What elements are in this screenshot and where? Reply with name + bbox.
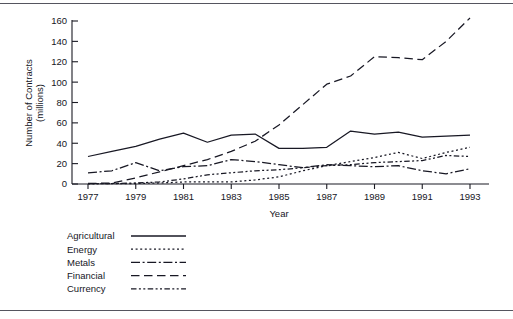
x-axis-tick-label: 1985	[268, 191, 289, 202]
y-axis-tick-label: 120	[51, 56, 67, 67]
y-axis-tick-label: 0	[62, 178, 67, 189]
figure-container: 020406080100120140160 197719791981198319…	[0, 0, 513, 319]
series-lines	[88, 18, 470, 184]
series-line-financial	[88, 18, 470, 184]
y-axis: 020406080100120140160	[51, 15, 78, 189]
legend-label-metals: Metals	[67, 257, 95, 268]
x-axis-tick-label: 1993	[459, 191, 480, 202]
y-axis-tick-label: 80	[56, 97, 67, 108]
legend-label-energy: Energy	[67, 244, 97, 255]
y-axis-tick-label: 60	[56, 117, 67, 128]
y-axis-tick-label: 100	[51, 77, 67, 88]
series-line-currency	[88, 155, 470, 183]
y-axis-title-line1: Number of Contracts	[23, 59, 34, 147]
x-axis-tick-label: 1979	[125, 191, 146, 202]
chart-legend: AgriculturalEnergyMetalsFinancialCurrenc…	[67, 230, 186, 294]
y-axis-tick-label: 140	[51, 36, 67, 47]
x-axis: 197719791981198319851987198919911993	[72, 184, 489, 202]
line-chart: 020406080100120140160 197719791981198319…	[0, 0, 513, 319]
x-axis-tick-label: 1981	[173, 191, 194, 202]
legend-label-agricultural: Agricultural	[67, 230, 115, 241]
x-axis-tick-label: 1977	[77, 191, 98, 202]
y-axis-tick-label: 160	[51, 15, 67, 26]
series-line-agricultural	[88, 131, 470, 156]
x-axis-tick-label: 1989	[364, 191, 385, 202]
legend-label-financial: Financial	[67, 270, 105, 281]
x-axis-tick-label: 1991	[412, 191, 433, 202]
x-axis-tick-label: 1987	[316, 191, 337, 202]
x-axis-tick-label: 1983	[221, 191, 242, 202]
x-axis-title: Year	[269, 208, 288, 219]
legend-label-currency: Currency	[67, 283, 106, 294]
y-axis-tick-label: 20	[56, 158, 67, 169]
series-line-energy	[88, 147, 470, 183]
y-axis-title-line2: (millions)	[34, 84, 45, 122]
series-line-metals	[88, 160, 470, 174]
y-axis-tick-label: 40	[56, 138, 67, 149]
